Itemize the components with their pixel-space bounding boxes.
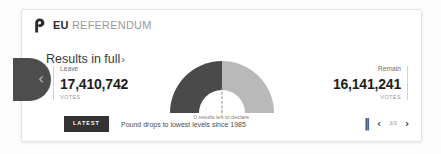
results-in-full-link[interactable]: Results in full› (46, 53, 125, 66)
gauge-donut (170, 61, 274, 113)
brand-light: REFERENDUM (72, 19, 152, 31)
brand-strong: EU (53, 19, 69, 31)
pause-icon[interactable]: ‖ (364, 118, 369, 130)
screenshot-root: EU REFERENDUM Results in full› ‹ Leave 1… (0, 0, 441, 154)
ticker-counter: 3/3 (389, 121, 397, 127)
eu-referendum-results-card: EU REFERENDUM Results in full› ‹ Leave 1… (21, 9, 422, 142)
leave-count: 17,410,742 (60, 77, 128, 91)
ticker-prev-icon[interactable]: ‹ (377, 119, 381, 129)
remain-unit: VOTES (333, 95, 401, 101)
leave-label: Leave (60, 66, 128, 73)
eu-referendum-logo-icon (33, 18, 47, 33)
results-in-full-label: Results in full (46, 52, 120, 66)
ticker-next-icon[interactable]: › (405, 119, 409, 129)
remain-label: Remain (333, 66, 401, 73)
leave-unit: VOTES (60, 95, 128, 101)
card-header: EU REFERENDUM (22, 10, 421, 41)
remain-count: 16,141,241 (333, 77, 401, 91)
remain-stat: Remain 16,141,241 VOTES (333, 66, 408, 100)
ticker-player-controls: ‖ ‹ 3/3 › (364, 118, 409, 130)
brand-title: EU REFERENDUM (53, 20, 152, 31)
chevron-right-icon: › (121, 53, 125, 65)
news-ticker: LATEST Pound drops to lowest levels sinc… (22, 113, 421, 135)
results-gauge: 0 results left to declare (170, 61, 274, 121)
ticker-headline[interactable]: Pound drops to lowest levels since 1985 (121, 121, 364, 128)
gauge-midline-marker (221, 87, 222, 113)
latest-badge[interactable]: LATEST (64, 116, 109, 132)
leave-stat: Leave 17,410,742 VOTES (53, 66, 128, 100)
